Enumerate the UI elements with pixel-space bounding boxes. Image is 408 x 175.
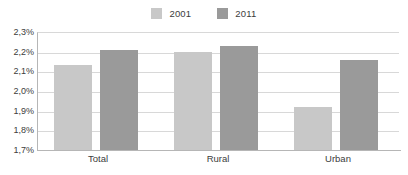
bar-rural-2011[interactable] — [220, 46, 258, 150]
y-tick-label-3: 2,0% — [1, 87, 34, 96]
y-tick-label-4: 1,9% — [1, 106, 34, 115]
legend-swatch-2011 — [217, 8, 228, 19]
bar-total-2011[interactable] — [100, 50, 138, 150]
y-tick-label-6: 1,7% — [1, 146, 34, 155]
x-tick-label-rural: Rural — [158, 154, 278, 164]
bar-urban-2011[interactable] — [340, 60, 378, 150]
x-tick-label-urban: Urban — [278, 154, 398, 164]
bar-group-total — [38, 32, 158, 150]
legend-item-2011[interactable]: 2011 — [217, 8, 256, 19]
bar-chart: 2001 2011 2,3% 2,2% 2,1% 2,0% 1,9% 1,8% … — [0, 0, 408, 175]
legend-label-2011: 2011 — [235, 9, 256, 19]
legend-swatch-2001 — [151, 8, 162, 19]
bar-rural-2001[interactable] — [174, 52, 212, 150]
bars-layer — [38, 32, 399, 150]
chart-legend: 2001 2011 — [0, 8, 408, 19]
bar-group-urban — [278, 32, 399, 150]
bar-urban-2001[interactable] — [294, 107, 332, 150]
x-tick-label-total: Total — [38, 154, 158, 164]
legend-label-2001: 2001 — [169, 9, 191, 19]
y-tick-label-1: 2,2% — [1, 47, 34, 56]
bar-group-rural — [158, 32, 278, 150]
y-tick-label-0: 2,3% — [1, 28, 34, 37]
x-axis: Total Rural Urban — [38, 154, 399, 170]
legend-item-2001[interactable]: 2001 — [151, 8, 191, 19]
bar-total-2001[interactable] — [54, 65, 92, 150]
y-tick-label-2: 2,1% — [1, 67, 34, 76]
y-axis: 2,3% 2,2% 2,1% 2,0% 1,9% 1,8% 1,7% — [0, 32, 34, 150]
x-axis-line — [37, 150, 401, 151]
y-tick-label-5: 1,8% — [1, 126, 34, 135]
